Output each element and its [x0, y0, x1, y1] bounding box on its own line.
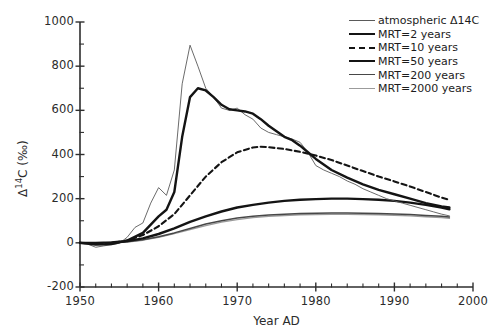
legend-label: MRT=2 years	[378, 29, 451, 40]
legend-swatch-line-icon	[349, 42, 375, 54]
legend-label: MRT=50 years	[378, 56, 458, 67]
x-axis-title: Year AD	[217, 314, 337, 328]
legend-swatch-line-icon	[349, 83, 375, 95]
legend-item[interactable]: MRT=2 years	[349, 28, 479, 42]
legend-swatch-line-icon	[349, 56, 375, 68]
x-tick-label: 1990	[368, 294, 420, 308]
chart-legend: atmospheric Δ14CMRT=2 yearsMRT=10 yearsM…	[349, 14, 479, 96]
y-tick-label: 1000	[22, 14, 74, 28]
legend-label: MRT=10 years	[378, 42, 458, 53]
legend-label: MRT=200 years	[378, 70, 465, 81]
legend-swatch-line-icon	[349, 69, 375, 81]
legend-label: atmospheric Δ14C	[378, 15, 479, 26]
y-tick-label: 400	[22, 147, 74, 161]
x-tick-label: 1960	[133, 294, 185, 308]
legend-swatch-line-icon	[349, 15, 375, 27]
legend-item[interactable]: MRT=50 years	[349, 55, 479, 69]
x-tick-label: 1980	[290, 294, 342, 308]
x-tick-label: 1970	[211, 294, 263, 308]
legend-swatch-line-icon	[349, 28, 375, 40]
x-tick-label: 2000	[447, 294, 494, 308]
y-tick-label: -200	[22, 279, 74, 293]
legend-item[interactable]: MRT=2000 years	[349, 82, 479, 96]
legend-label: MRT=2000 years	[378, 83, 472, 94]
legend-item[interactable]: MRT=10 years	[349, 41, 479, 55]
legend-item[interactable]: atmospheric Δ14C	[349, 14, 479, 28]
y-tick-label: 600	[22, 102, 74, 116]
y-tick-label: 200	[22, 191, 74, 205]
series-line-mrt-2-years	[80, 88, 449, 244]
y-tick-label: 800	[22, 58, 74, 72]
y-tick-label: 0	[22, 235, 74, 249]
chart-figure: Δ14C (‰) Year AD atmospheric Δ14CMRT=2 y…	[0, 0, 494, 328]
legend-item[interactable]: MRT=200 years	[349, 68, 479, 82]
x-tick-label: 1950	[54, 294, 106, 308]
